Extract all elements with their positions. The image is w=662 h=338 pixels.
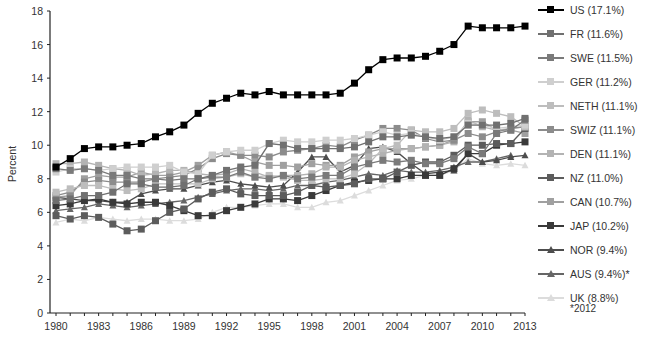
x-tick-label: 2001 (343, 320, 367, 332)
data-point-square (152, 184, 159, 191)
data-point-square (166, 162, 173, 169)
data-point-square (237, 147, 244, 154)
x-tick-label: 2010 (471, 320, 495, 332)
data-point-square (166, 184, 173, 191)
data-point-square (308, 192, 315, 199)
data-point-square (251, 162, 258, 169)
data-point-square (450, 133, 457, 140)
legend-item-can: CAN (10.7%) (538, 195, 632, 209)
data-point-square (81, 165, 88, 172)
data-point-square (479, 122, 486, 129)
legend-item-den: DEN (11.1%) (538, 147, 631, 161)
data-point-square (266, 153, 273, 160)
legend-swatch-square-icon (538, 3, 564, 17)
data-point-square (479, 142, 486, 149)
data-point-square (379, 145, 386, 152)
legend-item-ger: GER (11.2%) (538, 75, 632, 89)
data-point-square (337, 182, 344, 189)
data-point-square (294, 175, 301, 182)
data-point-square (124, 172, 131, 179)
data-point-square (237, 90, 244, 97)
data-point-square (337, 164, 344, 171)
data-point-square (394, 142, 401, 149)
data-point-square (422, 143, 429, 150)
data-point-square (394, 169, 401, 176)
data-point-square (465, 143, 472, 150)
data-point-square (81, 212, 88, 219)
data-point-square (408, 172, 415, 179)
y-tick-label: 10 (31, 139, 43, 151)
data-point-square (266, 140, 273, 147)
data-point-square (507, 120, 514, 127)
data-point-square (223, 95, 230, 102)
data-point-square (351, 80, 358, 87)
y-tick-label: 14 (31, 72, 43, 84)
data-point-square (67, 195, 74, 202)
x-tick-label: 1986 (130, 320, 154, 332)
data-point-square (138, 140, 145, 147)
data-point-square (394, 175, 401, 182)
data-point-square (223, 174, 230, 181)
data-point-square (109, 199, 116, 206)
data-point-square (138, 226, 145, 233)
data-point-square (308, 145, 315, 152)
legend-swatch-triangle-icon (538, 267, 564, 281)
data-point-square (337, 172, 344, 179)
data-point-square (507, 140, 514, 147)
x-tick-label: 1992 (215, 320, 239, 332)
data-point-square (138, 180, 145, 187)
y-tick-label: 6 (37, 206, 43, 218)
data-point-square (450, 165, 457, 172)
data-point-square (280, 192, 287, 199)
data-point-square (308, 91, 315, 98)
data-point-square (365, 175, 372, 182)
data-point-square (408, 145, 415, 152)
data-point-square (479, 24, 486, 31)
data-point-square (223, 185, 230, 192)
data-point-square (379, 157, 386, 164)
legend-item-swe: SWE (11.5%) (538, 51, 633, 65)
data-point-square (323, 164, 330, 171)
data-point-square (323, 91, 330, 98)
data-point-square (152, 164, 159, 171)
data-point-square (493, 140, 500, 147)
data-point-square (465, 130, 472, 137)
data-point-square (180, 169, 187, 176)
data-point-square (507, 113, 514, 120)
data-point-square (280, 162, 287, 169)
data-point-square (294, 189, 301, 196)
data-point-square (294, 164, 301, 171)
data-point-square (450, 125, 457, 132)
data-point-square (323, 137, 330, 144)
data-point-square (323, 184, 330, 191)
data-point-square (195, 110, 202, 117)
data-point-square (308, 174, 315, 181)
x-tick-label: 1980 (44, 320, 68, 332)
x-tick-label: 2007 (428, 320, 452, 332)
data-point-square (152, 217, 159, 224)
y-tick-label: 2 (37, 273, 43, 285)
legend-swatch-square-icon (538, 171, 564, 185)
data-point-square (109, 143, 116, 150)
data-point-square (180, 182, 187, 189)
data-point-square (138, 199, 145, 206)
legend-swatch-square-icon (538, 195, 564, 209)
data-point-square (365, 153, 372, 160)
data-point-square (124, 164, 131, 171)
legend-swatch-square-icon (538, 75, 564, 89)
data-point-square (280, 148, 287, 155)
data-point-square (337, 145, 344, 152)
data-point-square (436, 48, 443, 55)
data-point-square (351, 170, 358, 177)
data-point-square (109, 179, 116, 186)
data-point-square (166, 209, 173, 216)
data-point-square (95, 214, 102, 221)
data-point-square (351, 164, 358, 171)
data-point-square (109, 221, 116, 228)
data-point-square (81, 159, 88, 166)
data-point-square (209, 152, 216, 159)
legend-swatch-square-icon (538, 99, 564, 113)
data-point-square (81, 192, 88, 199)
data-point-square (493, 122, 500, 129)
data-point-square (166, 177, 173, 184)
